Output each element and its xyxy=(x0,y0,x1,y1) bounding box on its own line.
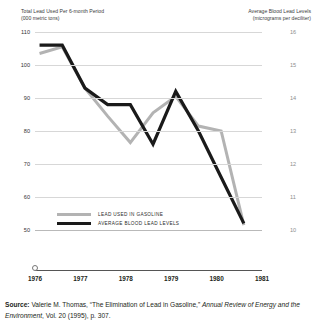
x-axis-tick: 1981 xyxy=(242,275,282,282)
right-axis-tick: 15 xyxy=(290,62,314,68)
right-axis-tick: 16 xyxy=(290,29,314,35)
source-text-after: , Vol. 20 (1995), p. 307. xyxy=(42,312,111,319)
right-axis-tick: 12 xyxy=(290,161,314,167)
left-axis-tick: 80 xyxy=(8,128,30,134)
left-axis-tick: 100 xyxy=(8,62,30,68)
right-axis-tick: 11 xyxy=(290,194,314,200)
legend-item-gasoline: LEAD USED IN GASOLINE xyxy=(57,210,179,219)
right-axis-tick: 10 xyxy=(290,227,314,233)
right-axis-title: Average Blood Lead Levels (micrograms pe… xyxy=(248,8,311,22)
legend-label-gasoline: LEAD USED IN GASOLINE xyxy=(98,212,163,217)
gridline xyxy=(35,32,262,33)
gridline xyxy=(35,65,262,66)
left-axis-title: Total Lead Used Per 6-month Period (000 … xyxy=(21,8,104,22)
left-axis-tick: 60 xyxy=(8,194,30,200)
x-axis-tick: 1979 xyxy=(151,275,191,282)
lead-gasoline-blood-chart: Total Lead Used Per 6-month Period (000 … xyxy=(0,0,319,331)
source-text-before: Valerie M. Thomas, “The Elimination of L… xyxy=(30,301,202,308)
x-axis-tick: 1978 xyxy=(106,275,146,282)
gridline xyxy=(35,197,262,198)
legend: LEAD USED IN GASOLINE AVERAGE BLOOD LEAD… xyxy=(57,210,179,228)
x-axis-tick: 1976 xyxy=(15,275,55,282)
left-axis-tick: 70 xyxy=(8,161,30,167)
right-axis-tick: 13 xyxy=(290,128,314,134)
gridline xyxy=(35,164,262,165)
x-axis-origin-marker xyxy=(32,265,38,271)
x-axis-line xyxy=(35,270,262,271)
right-axis-tick: 14 xyxy=(290,95,314,101)
left-axis-tick: 50 xyxy=(8,227,30,233)
legend-swatch-gasoline xyxy=(57,213,91,216)
x-axis-tick: 1980 xyxy=(197,275,237,282)
legend-item-blood: AVERAGE BLOOD LEAD LEVELS xyxy=(57,219,179,228)
x-axis-tick: 1977 xyxy=(60,275,100,282)
source-label: Source: xyxy=(5,301,30,308)
gridline xyxy=(35,230,262,231)
legend-swatch-blood xyxy=(57,222,91,225)
left-axis-tick: 90 xyxy=(8,95,30,101)
plot-area xyxy=(35,32,262,230)
gridline xyxy=(35,98,262,99)
source-note: Source: Valerie M. Thomas, “The Eliminat… xyxy=(5,300,314,321)
series-line xyxy=(40,47,244,225)
left-axis-tick: 110 xyxy=(8,29,30,35)
gridline xyxy=(35,131,262,132)
legend-label-blood: AVERAGE BLOOD LEAD LEVELS xyxy=(98,221,179,226)
